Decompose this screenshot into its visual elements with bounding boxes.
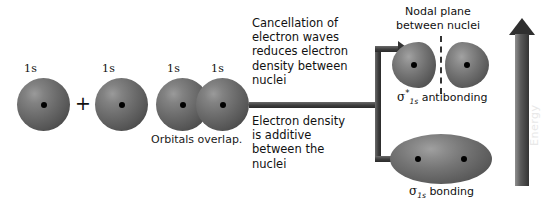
nucleus-dot	[461, 156, 467, 162]
antibonding-label-text: antibonding	[422, 91, 488, 104]
orbital-subscript: 1s	[417, 191, 426, 200]
sigma-symbol: σ	[397, 90, 405, 104]
nucleus-dot	[415, 156, 421, 162]
nucleus-dot	[464, 62, 470, 68]
arrow-trunk	[249, 102, 381, 108]
bonding-orbital-group: σ1s bonding	[380, 126, 500, 201]
energy-arrow-shaft: Energy	[515, 34, 529, 186]
bonding-orbital-lobe	[390, 134, 492, 184]
energy-axis-arrow: Energy	[505, 18, 545, 193]
antibonding-orbital-label: σ*1s antibonding	[397, 88, 487, 106]
bonding-orbital-label: σ1s bonding	[409, 184, 474, 200]
orbital-subscript: 1s	[409, 97, 418, 106]
antibonding-orbital-group: σ*1s antibonding	[380, 36, 500, 106]
antibonding-lobe-right	[445, 42, 489, 88]
antibonding-lobe-left	[392, 42, 436, 88]
sigma-symbol: σ	[409, 184, 417, 198]
antibonding-annotation-text: Cancellation of electron waves reduces e…	[252, 16, 377, 87]
nucleus-dot	[411, 62, 417, 68]
bonding-label-text: bonding	[429, 185, 474, 198]
molecular-orbital-diagram: 1s + 1s 1s 1s Orbitals overlap.	[0, 0, 549, 205]
energy-arrowhead-icon	[509, 18, 535, 35]
nodal-plane-line	[440, 36, 442, 94]
bonding-annotation-text: Electron density is additive between the…	[252, 114, 377, 171]
energy-axis-label: Energy	[528, 104, 541, 146]
nodal-plane-caption: Nodal plane between nuclei	[379, 5, 497, 32]
